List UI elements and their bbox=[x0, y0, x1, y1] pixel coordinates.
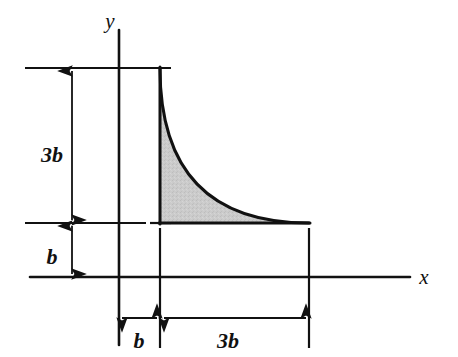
shaded-area-fill bbox=[160, 68, 309, 223]
x-axis-label: x bbox=[418, 265, 429, 289]
y-axis-label: y bbox=[103, 9, 115, 33]
dimension-label-horizontal-b: b bbox=[134, 328, 145, 353]
figure-canvas: 3b b b 3b y x bbox=[0, 0, 458, 357]
coordinate-axes bbox=[30, 30, 410, 345]
dimension-label-horizontal-3b: 3b bbox=[216, 328, 239, 353]
spandrel-diagram: 3b b b 3b y x bbox=[0, 0, 458, 357]
dimension-label-vertical-3b: 3b bbox=[40, 142, 63, 167]
dimension-label-vertical-b: b bbox=[47, 244, 58, 269]
